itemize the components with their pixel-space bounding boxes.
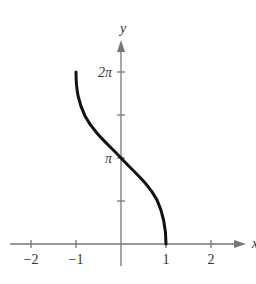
x-tick-label: 2 <box>208 252 215 267</box>
x-tick-label: −2 <box>24 252 39 267</box>
x-axis-arrow-icon <box>234 240 246 248</box>
x-tick-label: −1 <box>69 252 84 267</box>
y-tick-label: π <box>105 151 113 166</box>
y-axis-label: y <box>118 21 127 36</box>
y-axis-arrow-icon <box>117 40 125 52</box>
x-axis-label: x <box>251 236 256 251</box>
chart: −2 −1 1 2 π 2π y x <box>0 0 256 284</box>
y-tick-label: 2π <box>98 65 113 80</box>
x-tick-label: 1 <box>163 252 170 267</box>
